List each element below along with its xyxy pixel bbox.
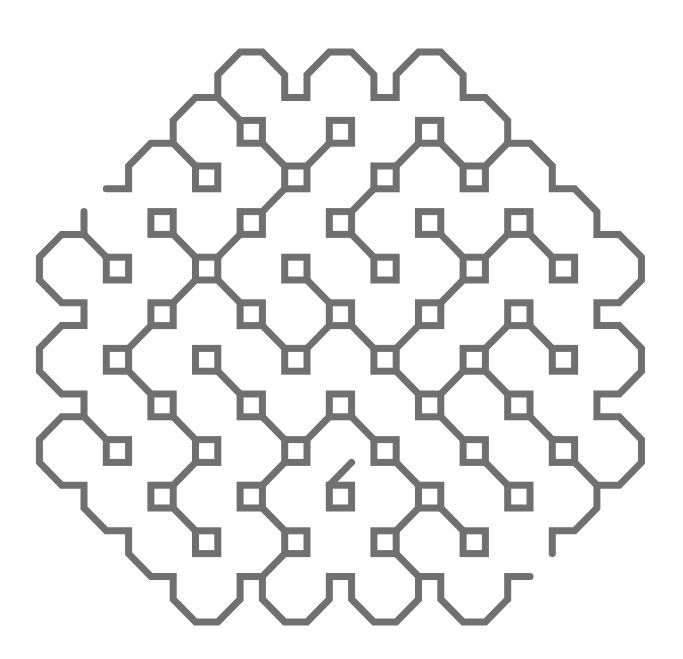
lattice-figure (0, 0, 683, 659)
background (0, 0, 683, 659)
